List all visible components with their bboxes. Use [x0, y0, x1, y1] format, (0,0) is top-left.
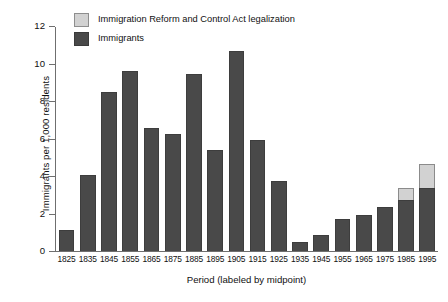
x-tick-label-1995: 1995 [417, 254, 438, 264]
bar-slot-1835 [77, 27, 98, 251]
bar-segment-immigrants-1895[interactable] [207, 150, 223, 251]
bar-1985[interactable] [398, 188, 414, 251]
x-tick-label-1905: 1905 [226, 254, 247, 264]
bar-1915[interactable] [250, 140, 266, 251]
bar-slot-1895 [205, 27, 226, 251]
legend-label-legalization: Immigration Reform and Control Act legal… [98, 14, 295, 25]
x-tick-label-1965: 1965 [353, 254, 374, 264]
bar-slot-1925 [268, 27, 289, 251]
x-tick-label-1985: 1985 [396, 254, 417, 264]
legend-swatch-legalization [74, 13, 89, 27]
x-tick-label-1945: 1945 [311, 254, 332, 264]
bar-1825[interactable] [59, 230, 75, 251]
x-tick-label-1875: 1875 [162, 254, 183, 264]
bar-1925[interactable] [271, 181, 287, 251]
x-tick-label-1845: 1845 [98, 254, 119, 264]
bar-segment-immigrants-1845[interactable] [101, 92, 117, 251]
bar-1835[interactable] [80, 175, 96, 251]
y-tick-8: 8 [49, 101, 55, 102]
bar-1955[interactable] [335, 219, 351, 251]
bar-group [56, 27, 438, 251]
bar-1855[interactable] [122, 71, 138, 251]
bar-segment-legalization-1985[interactable] [398, 188, 414, 200]
y-tick-10: 10 [49, 64, 55, 65]
bar-segment-immigrants-1865[interactable] [144, 128, 160, 251]
bar-segment-immigrants-1855[interactable] [122, 71, 138, 251]
bar-1895[interactable] [207, 150, 223, 251]
bar-slot-1995 [417, 27, 438, 251]
x-tick-label-1915: 1915 [247, 254, 268, 264]
bar-segment-immigrants-1835[interactable] [80, 175, 96, 251]
bar-segment-immigrants-1905[interactable] [229, 51, 245, 251]
bar-1965[interactable] [356, 215, 372, 251]
y-tick-2: 2 [49, 214, 55, 215]
bar-slot-1865 [141, 27, 162, 251]
x-tick-label-1855: 1855 [120, 254, 141, 264]
bar-segment-immigrants-1925[interactable] [271, 181, 287, 251]
bar-segment-immigrants-1965[interactable] [356, 215, 372, 251]
bar-1875[interactable] [165, 134, 181, 251]
immigration-bar-chart: Immigration Reform and Control Act legal… [0, 0, 448, 302]
x-axis-ticks: 1825183518451855186518751885189519051915… [56, 254, 438, 264]
bar-segment-legalization-1995[interactable] [419, 164, 435, 188]
bar-segment-immigrants-1885[interactable] [186, 74, 202, 251]
y-tick-label: 2 [40, 208, 45, 219]
y-tick-0: 0 [49, 251, 55, 252]
y-tick-4: 4 [49, 176, 55, 177]
bar-slot-1905 [226, 27, 247, 251]
x-tick-label-1865: 1865 [141, 254, 162, 264]
bar-slot-1885 [183, 27, 204, 251]
bar-1865[interactable] [144, 128, 160, 251]
bar-slot-1855 [120, 27, 141, 251]
bar-1975[interactable] [377, 207, 393, 251]
bar-segment-immigrants-1975[interactable] [377, 207, 393, 251]
bar-slot-1945 [311, 27, 332, 251]
x-tick-label-1925: 1925 [268, 254, 289, 264]
bar-slot-1965 [353, 27, 374, 251]
bar-segment-immigrants-1955[interactable] [335, 219, 351, 251]
y-tick-label: 8 [40, 95, 45, 106]
x-axis-title: Period (labeled by midpoint) [55, 274, 438, 285]
y-tick-label: 12 [34, 20, 45, 31]
bar-1945[interactable] [313, 235, 329, 251]
x-tick-label-1935: 1935 [289, 254, 310, 264]
bar-1995[interactable] [419, 164, 435, 251]
y-tick-label: 0 [40, 245, 45, 256]
bar-slot-1875 [162, 27, 183, 251]
bar-slot-1985 [396, 27, 417, 251]
x-tick-label-1955: 1955 [332, 254, 353, 264]
plot-area: 024681012 [55, 27, 438, 252]
x-axis-line [55, 251, 438, 252]
y-tick-label: 10 [34, 58, 45, 69]
x-tick-label-1885: 1885 [183, 254, 204, 264]
bar-slot-1975 [374, 27, 395, 251]
bar-slot-1825 [56, 27, 77, 251]
bar-1935[interactable] [292, 242, 308, 251]
bar-segment-immigrants-1935[interactable] [292, 242, 308, 251]
bar-segment-immigrants-1945[interactable] [313, 235, 329, 251]
bar-segment-immigrants-1995[interactable] [419, 188, 435, 251]
bar-slot-1845 [98, 27, 119, 251]
bar-1885[interactable] [186, 74, 202, 251]
bar-1905[interactable] [229, 51, 245, 251]
bar-slot-1915 [247, 27, 268, 251]
x-tick-label-1825: 1825 [56, 254, 77, 264]
bar-segment-immigrants-1825[interactable] [59, 230, 75, 251]
x-tick-label-1835: 1835 [77, 254, 98, 264]
bar-1845[interactable] [101, 92, 117, 251]
bar-segment-immigrants-1915[interactable] [250, 140, 266, 251]
bar-segment-immigrants-1985[interactable] [398, 200, 414, 251]
y-tick-12: 12 [49, 26, 55, 27]
bar-segment-immigrants-1875[interactable] [165, 134, 181, 251]
x-tick-label-1975: 1975 [374, 254, 395, 264]
y-tick-6: 6 [49, 139, 55, 140]
bar-slot-1955 [332, 27, 353, 251]
y-tick-label: 6 [40, 133, 45, 144]
bar-slot-1935 [289, 27, 310, 251]
y-tick-label: 4 [40, 170, 45, 181]
x-tick-label-1895: 1895 [205, 254, 226, 264]
